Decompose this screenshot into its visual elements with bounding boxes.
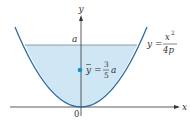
parabola-diagram: y x 0 a y = x 2 4p y = 3 5 a bbox=[0, 0, 190, 120]
curve-numerator: x bbox=[165, 32, 170, 42]
curve-exponent: 2 bbox=[171, 29, 175, 36]
origin-label: 0 bbox=[74, 109, 79, 119]
curve-denominator: 4p bbox=[162, 45, 174, 55]
y-axis-arrow-icon bbox=[79, 15, 83, 21]
centroid-equals: = bbox=[94, 65, 102, 75]
curve-equation: y = x 2 4p bbox=[146, 29, 177, 55]
level-a-label: a bbox=[72, 34, 77, 44]
x-axis-arrow-icon bbox=[174, 105, 180, 109]
centroid-suffix: a bbox=[111, 65, 116, 75]
centroid-frac-den: 5 bbox=[104, 71, 109, 80]
centroid-frac-num: 3 bbox=[104, 60, 109, 69]
centroid-dot bbox=[78, 68, 83, 73]
centroid-symbol: y bbox=[85, 65, 92, 75]
y-axis-label: y bbox=[78, 4, 85, 14]
x-axis-label: x bbox=[182, 102, 187, 112]
curve-lhs: y = bbox=[146, 39, 163, 49]
